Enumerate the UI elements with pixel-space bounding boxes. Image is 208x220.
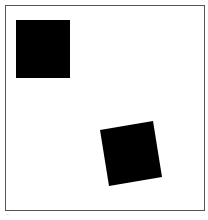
square-rotated bbox=[100, 121, 162, 186]
square-upright bbox=[16, 20, 70, 78]
figure-canvas bbox=[0, 0, 208, 220]
figure-caption: ·· bbox=[6, 211, 9, 217]
